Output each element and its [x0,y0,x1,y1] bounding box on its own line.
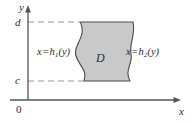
tick-label-c: c [15,75,20,86]
region-label-d: D [96,52,105,64]
right-eq-argument: (y) [147,46,159,57]
left-eq-variable: x [37,46,42,57]
left-boundary-equation-label: x=h1(y) [37,47,70,59]
left-eq-operator: = [42,46,50,57]
right-eq-operator: = [131,46,139,57]
origin-label: 0 [16,104,22,115]
y-axis-arrowhead-icon [25,5,31,13]
right-eq-variable: x [126,46,131,57]
type-ii-region-figure: y x d c 0 D x=h1(y) x=h2(y) [0,0,194,123]
x-axis-label: x [179,106,184,117]
right-boundary-equation-label: x=h2(y) [126,47,159,59]
x-axis-arrowhead-icon [174,97,182,103]
left-eq-argument: (y) [58,46,70,57]
y-axis-label: y [19,2,24,13]
tick-label-d: d [15,17,21,28]
